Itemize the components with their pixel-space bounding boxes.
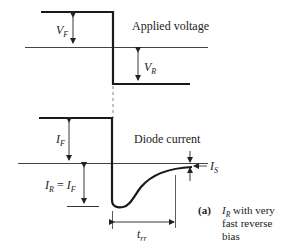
diode-current-title: Diode current [134, 132, 201, 146]
caption-tag: (a) [198, 204, 211, 217]
diode-reverse-recovery-diagram: VF VR Applied voltage IF IR = IF Diode c… [0, 0, 295, 251]
figure-caption: (a) IR with very fast reverse bias [198, 204, 275, 242]
if-label: IF [55, 132, 65, 148]
voltage-panel: VF VR Applied voltage [25, 12, 209, 84]
trr-label: trr [137, 227, 147, 243]
is-label: IS [209, 159, 218, 175]
caption-line-2: fast reverse [222, 217, 273, 229]
caption-line-3: bias [222, 230, 240, 242]
current-panel: IF IR = IF Diode current IS trr [18, 118, 218, 243]
applied-voltage-title: Applied voltage [132, 19, 209, 33]
vr-label: VR [144, 60, 156, 76]
ir-equals-if-label: IR = IF [44, 178, 76, 194]
vf-label: VF [56, 23, 68, 39]
